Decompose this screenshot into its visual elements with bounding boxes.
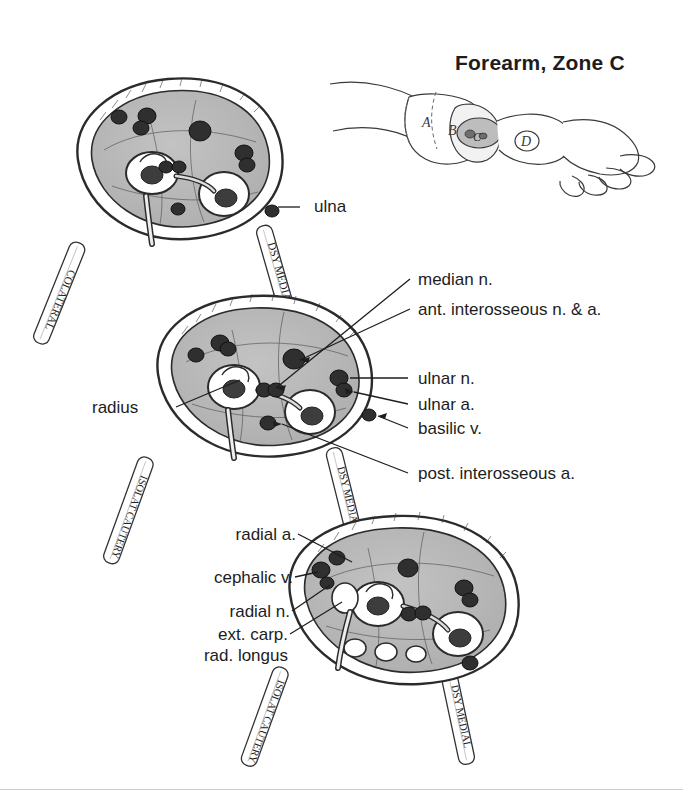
label-basilic-v: basilic v. bbox=[418, 418, 482, 439]
inset-zone-C: C bbox=[473, 130, 482, 144]
cross-section-proximal bbox=[77, 78, 282, 244]
label-radial-a: radial a. bbox=[100, 524, 296, 545]
structure-ext-carp-rad-longus bbox=[332, 583, 358, 613]
page-title: Forearm, Zone C bbox=[455, 52, 625, 73]
label-ext-carp-line2: rad. longus bbox=[90, 645, 288, 666]
label-radius: radius bbox=[92, 397, 138, 418]
label-ulna: ulna bbox=[314, 196, 346, 217]
label-ant-interosseous: ant. interosseous n. & a. bbox=[418, 299, 601, 320]
cross-section-distal bbox=[289, 512, 518, 684]
forearm-arm-inset: A B C D bbox=[330, 82, 655, 196]
inset-zone-A: A bbox=[421, 115, 431, 130]
label-ext-carp-line1: ext. carp. bbox=[90, 624, 288, 645]
label-cephalic-v: cephalic v. bbox=[60, 567, 293, 588]
structure-basilic-v bbox=[362, 409, 376, 421]
label-post-interosseous-a: post. interosseous a. bbox=[418, 463, 575, 484]
cross-section-middle bbox=[157, 293, 376, 458]
structure-ulnar-a bbox=[336, 383, 352, 397]
structure-radial-a bbox=[329, 551, 345, 565]
structure-cephalic-v bbox=[312, 562, 330, 578]
label-ulnar-a: ulnar a. bbox=[418, 394, 475, 415]
anatomy-artwork: A B C D COLATERAL DSY MEDIAL ISOLAT CAUT… bbox=[0, 0, 683, 790]
label-median-n: median n. bbox=[418, 269, 493, 290]
inset-zone-B: B bbox=[448, 123, 457, 138]
label-ulnar-n: ulnar n. bbox=[418, 368, 475, 389]
band-top-left: COLATERAL bbox=[32, 240, 89, 347]
inset-zone-D: D bbox=[520, 134, 531, 149]
illustration-canvas: A B C D COLATERAL DSY MEDIAL ISOLAT CAUT… bbox=[0, 0, 683, 790]
label-radial-n: radial n. bbox=[90, 601, 290, 622]
band-bottom-left: ISOLAT CAUTERY bbox=[239, 665, 291, 769]
band-mid-left: ISOLAT CAUTERY bbox=[102, 455, 156, 566]
